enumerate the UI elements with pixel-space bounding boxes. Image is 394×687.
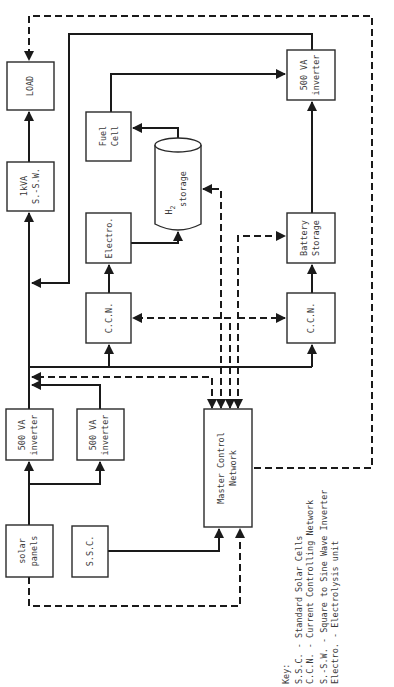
ctrl-master-to-bus bbox=[32, 377, 212, 407]
block-diagram: LOAD 1kVA S.-S.W. Fuel Cell H2 storage E… bbox=[0, 0, 394, 687]
key-entry-ssw: S.-S.W. - Square to Sine Wave Inverter bbox=[319, 490, 329, 684]
line-ssc-to-master bbox=[108, 529, 219, 551]
line-fuel-cell-to-inverter bbox=[111, 74, 285, 112]
block-inverter-a: 500 VA inverter bbox=[6, 409, 53, 460]
inverter-b-label-2: inverter bbox=[100, 415, 110, 456]
battery-label-2: Storage bbox=[311, 220, 321, 256]
h2-cylinder-top bbox=[155, 138, 201, 152]
key-entry-ssc: S.S.C. - Standard Solar Cells bbox=[294, 536, 304, 684]
block-solar-panels: solar panels bbox=[6, 525, 53, 577]
block-ccn-right: C.C.N. bbox=[287, 293, 335, 343]
key-entry-electro: Electro. - Electrolysis unit bbox=[330, 541, 340, 684]
block-load: LOAD bbox=[7, 62, 54, 110]
inverter-a-label-2: inverter bbox=[29, 415, 39, 456]
inverter-a-label-1: 500 VA bbox=[17, 420, 27, 451]
master-control-label-2: Network bbox=[228, 450, 238, 486]
ctrl-solar-to-master bbox=[29, 529, 240, 606]
solar-panels-label-2: panels bbox=[29, 536, 39, 567]
block-sine-inverter: 1kVA S.-S.W. bbox=[7, 162, 54, 211]
ctrl-master-to-h2 bbox=[203, 189, 221, 407]
line-solar-to-inverter-b bbox=[29, 462, 100, 484]
block-battery: Battery Storage bbox=[287, 213, 335, 263]
line-electro-to-h2 bbox=[131, 232, 178, 243]
inverter-top-label-1: 500 VA bbox=[299, 60, 309, 91]
block-fuel-cell: Fuel Cell bbox=[86, 112, 131, 161]
master-control-label-1: Master Control bbox=[216, 432, 226, 504]
block-inverter-b: 500 VA inverter bbox=[77, 409, 124, 460]
load-label: LOAD bbox=[25, 76, 35, 96]
ssc-label: S.S.C. bbox=[85, 536, 95, 567]
key-entry-ccn: C.C.N. - Current Controlling Network bbox=[305, 500, 315, 684]
block-ssc: S.S.C. bbox=[72, 526, 108, 577]
ccn-right-label: C.C.N. bbox=[306, 303, 316, 334]
block-electrolysis: Electro. bbox=[86, 213, 131, 263]
h2-storage-label: storage bbox=[178, 171, 188, 207]
solar-panels-label-1: solar bbox=[17, 538, 27, 564]
battery-label-1: Battery bbox=[299, 220, 309, 256]
block-ccn-left: C.C.N. bbox=[86, 293, 131, 343]
sine-inverter-label-1: 1kVA bbox=[19, 176, 29, 196]
line-inverter-b-to-bus bbox=[32, 385, 100, 409]
fuel-cell-label-2: Cell bbox=[110, 126, 120, 146]
block-h2-storage: H2 storage bbox=[155, 138, 201, 230]
fuel-cell-label-1: Fuel bbox=[98, 126, 108, 146]
inverter-top-label-2: inverter bbox=[311, 55, 321, 96]
electrolysis-label: Electro. bbox=[104, 218, 114, 259]
ctrl-master-to-ccn-left bbox=[133, 318, 230, 407]
ccn-left-label: C.C.N. bbox=[104, 303, 114, 334]
sine-inverter-label-2: S.-S.W. bbox=[31, 168, 41, 204]
ctrl-master-to-battery bbox=[238, 236, 285, 407]
line-h2-to-fuel-cell bbox=[133, 128, 178, 138]
key-heading: Key: bbox=[281, 664, 291, 684]
inverter-b-label-1: 500 VA bbox=[88, 420, 98, 451]
block-inverter-top: 500 VA inverter bbox=[287, 50, 335, 100]
power-lines bbox=[29, 34, 312, 551]
legend-key: Key: S.S.C. - Standard Solar Cells C.C.N… bbox=[281, 490, 340, 684]
block-master-control: Master Control Network bbox=[204, 409, 252, 527]
